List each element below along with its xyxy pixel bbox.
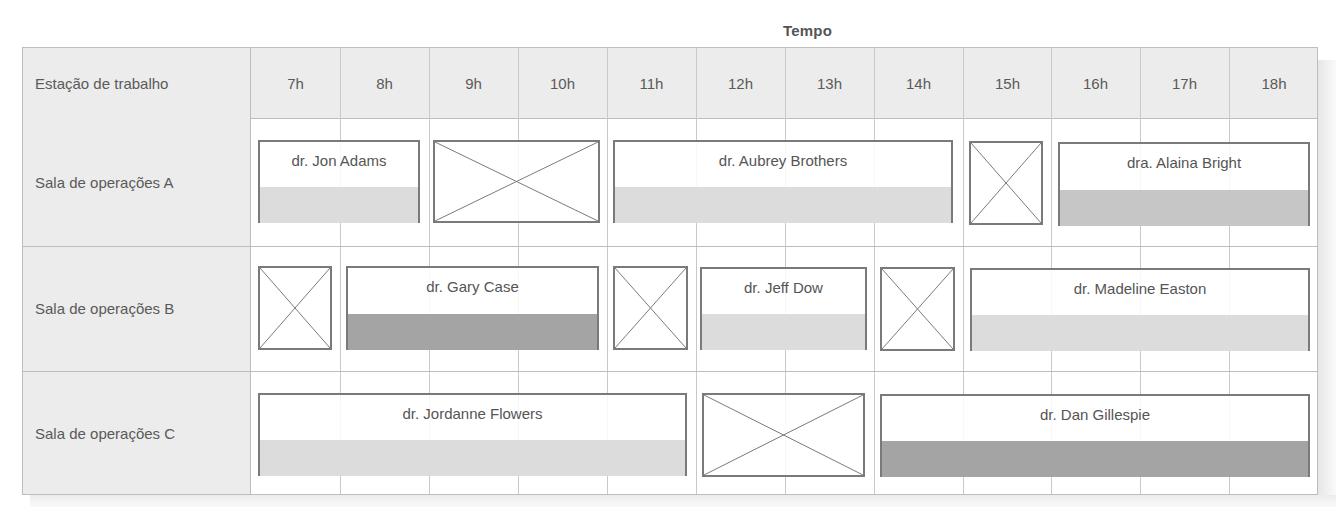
surgeon-name: dr. Jon Adams [260, 142, 418, 179]
cross-icon [615, 268, 686, 348]
booking-block[interactable]: dr. Madeline Easton [970, 268, 1310, 351]
booking-block[interactable]: dr. Aubrey Brothers [613, 140, 953, 223]
cross-icon [882, 269, 953, 349]
booking-block[interactable]: dr. Jon Adams [258, 140, 420, 223]
surgeon-name: dr. Jordanne Flowers [260, 395, 685, 432]
hour-header: 13h [785, 48, 874, 119]
booking-fill [972, 315, 1308, 351]
unavailable-slot [433, 140, 600, 223]
booking-fill [882, 441, 1308, 477]
cross-icon [435, 142, 598, 221]
hour-header: 10h [518, 48, 607, 119]
surgeon-name: dr. Gary Case [348, 268, 597, 306]
unavailable-slot [969, 141, 1043, 225]
hour-header: 8h [340, 48, 429, 119]
room-label-b: Sala de operações B [35, 246, 174, 371]
surgeon-name: dr. Dan Gillespie [882, 396, 1308, 433]
unavailable-slot [702, 393, 865, 477]
room-label-a: Sala de operações A [35, 119, 173, 246]
hour-header: 15h [963, 48, 1052, 119]
hour-header: 18h [1229, 48, 1319, 119]
hour-header: 17h [1140, 48, 1229, 119]
table-shadow-right [1318, 60, 1336, 505]
hour-header: 7h [251, 48, 340, 119]
unavailable-slot [880, 267, 955, 351]
booking-block[interactable]: dr. Dan Gillespie [880, 394, 1310, 477]
row-divider [23, 371, 1317, 372]
surgeon-name: dr. Jeff Dow [702, 269, 865, 306]
cross-icon [704, 395, 863, 475]
booking-block[interactable]: dr. Jordanne Flowers [258, 393, 687, 476]
time-axis-title: Tempo [783, 22, 832, 39]
hour-header: 14h [874, 48, 963, 119]
hour-header: 9h [429, 48, 518, 119]
hour-header: 12h [696, 48, 785, 119]
hour-header: 16h [1051, 48, 1140, 119]
surgeon-name: dr. Aubrey Brothers [615, 142, 951, 179]
booking-block[interactable]: dr. Gary Case [346, 266, 599, 350]
booking-block[interactable]: dr. Jeff Dow [700, 267, 867, 350]
row-divider [23, 246, 1317, 247]
surgeon-name: dr. Madeline Easton [972, 270, 1308, 307]
cross-icon [971, 143, 1041, 223]
room-label-c: Sala de operações C [35, 371, 175, 496]
booking-fill [260, 187, 418, 223]
cross-icon [260, 268, 330, 348]
workstation-header: Estação de trabalho [35, 48, 168, 119]
booking-fill [1060, 190, 1308, 226]
booking-fill [260, 440, 685, 476]
booking-fill [615, 187, 951, 223]
surgeon-name: dra. Alaina Bright [1060, 144, 1308, 182]
table-shadow-bottom [30, 495, 1336, 507]
hour-header: 11h [607, 48, 696, 119]
booking-block[interactable]: dra. Alaina Bright [1058, 142, 1310, 226]
unavailable-slot [258, 266, 332, 350]
booking-fill [702, 314, 865, 350]
booking-fill [348, 314, 597, 350]
unavailable-slot [613, 266, 688, 350]
